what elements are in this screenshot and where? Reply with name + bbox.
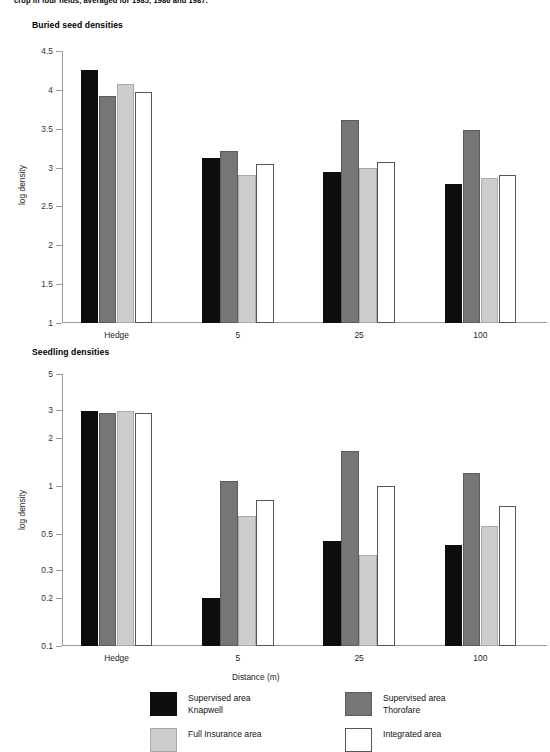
y-axis-tick-label: 1.5 [41, 279, 53, 289]
bar [463, 130, 481, 323]
y-axis-tick [56, 51, 62, 52]
bar [238, 516, 256, 646]
legend-label-line1: Full Insurance area [188, 729, 262, 741]
bar [481, 526, 499, 646]
x-axis-category-label: Hedge [104, 330, 129, 340]
y-axis-tick [56, 486, 62, 487]
y-axis-tick [56, 438, 62, 439]
y-axis-label-bottom: log density [17, 480, 27, 540]
y-axis-tick-label: 2 [48, 240, 53, 250]
y-axis-tick-label: 5 [48, 369, 53, 379]
legend-item-supervised-thorofare: Supervised area Thorofare [345, 692, 540, 716]
legend-label-line1: Supervised area [188, 693, 251, 705]
bar [202, 598, 220, 646]
buried-seed-density-chart: 11.522.533.544.5Hedge525100 [62, 51, 547, 323]
bar [377, 486, 395, 646]
x-axis-category-label: 5 [235, 330, 240, 340]
y-axis-tick [56, 374, 62, 375]
bar [99, 96, 117, 323]
legend-label-line2: Knapwell [188, 705, 251, 717]
figure-caption: crop in four fields, averaged for 1985, … [14, 0, 534, 6]
bar [341, 451, 359, 646]
y-axis-tick [56, 284, 62, 285]
legend-label-line1: Supervised area [383, 693, 446, 705]
y-axis-line [62, 51, 63, 323]
bar [256, 500, 274, 646]
bar [377, 162, 395, 323]
seedling-density-chart: 0.10.20.30.51235Hedge525100 [62, 374, 547, 646]
legend-item-integrated: Integrated area [345, 728, 540, 752]
y-axis-tick [56, 90, 62, 91]
bar [481, 178, 499, 323]
legend-swatch-icon [345, 728, 372, 752]
y-axis-tick [56, 206, 62, 207]
y-axis-tick [56, 410, 62, 411]
y-axis-tick-label: 4.5 [41, 46, 53, 56]
bar [445, 545, 463, 646]
legend: Supervised area Knapwell Supervised area… [150, 692, 550, 752]
bar [499, 175, 517, 323]
legend-label-line1: Integrated area [383, 729, 441, 741]
bar [323, 541, 341, 646]
y-axis-tick [56, 323, 62, 324]
y-axis-tick-label: 0.2 [41, 593, 53, 603]
bar [323, 172, 341, 323]
bar [81, 411, 99, 646]
bar [256, 164, 274, 323]
bar [445, 184, 463, 323]
bar [99, 413, 117, 646]
y-axis-tick-label: 4 [48, 85, 53, 95]
bar [359, 168, 377, 323]
y-axis-tick [56, 245, 62, 246]
legend-swatch-icon [150, 728, 177, 752]
y-axis-tick [56, 534, 62, 535]
bar [135, 413, 153, 646]
y-axis-tick-label: 0.5 [41, 529, 53, 539]
y-axis-tick-label: 2.5 [41, 201, 53, 211]
bar [81, 70, 99, 323]
bar [341, 120, 359, 323]
bar [202, 158, 220, 323]
legend-item-full-insurance: Full Insurance area [150, 728, 345, 752]
legend-item-supervised-knapwell: Supervised area Knapwell [150, 692, 345, 716]
bar [359, 555, 377, 646]
y-axis-tick [56, 570, 62, 571]
bar [238, 175, 256, 323]
y-axis-tick-label: 1 [48, 318, 53, 328]
bar [220, 481, 238, 646]
y-axis-tick [56, 646, 62, 647]
x-axis-category-label: 100 [473, 653, 487, 663]
bar [220, 151, 238, 323]
y-axis-tick-label: 3.5 [41, 124, 53, 134]
bar [117, 84, 135, 323]
y-axis-tick [56, 168, 62, 169]
x-axis-category-label: 100 [473, 330, 487, 340]
y-axis-tick [56, 598, 62, 599]
x-axis-label: Distance (m) [232, 672, 279, 682]
panel-title-seedling: Seedling densities [32, 347, 109, 357]
panel-title-buried-seed: Buried seed densities [32, 20, 123, 30]
y-axis-tick-label: 0.1 [41, 641, 53, 651]
x-axis-category-label: 5 [235, 653, 240, 663]
bar [117, 411, 135, 646]
y-axis-tick-label: 3 [48, 163, 53, 173]
y-axis-line [62, 374, 63, 646]
bar [135, 92, 153, 323]
y-axis-tick-label: 3 [48, 405, 53, 415]
y-axis-label-top: log density [17, 155, 27, 215]
y-axis-tick-label: 0.3 [41, 565, 53, 575]
x-axis-category-label: 25 [354, 330, 363, 340]
y-axis-tick-label: 1 [48, 481, 53, 491]
bar [463, 473, 481, 646]
legend-label-line2: Thorofare [383, 705, 446, 717]
y-axis-tick [56, 129, 62, 130]
legend-swatch-icon [345, 692, 372, 716]
legend-swatch-icon [150, 692, 177, 716]
x-axis-category-label: 25 [354, 653, 363, 663]
bar [499, 506, 517, 646]
x-axis-category-label: Hedge [104, 653, 129, 663]
y-axis-tick-label: 2 [48, 433, 53, 443]
